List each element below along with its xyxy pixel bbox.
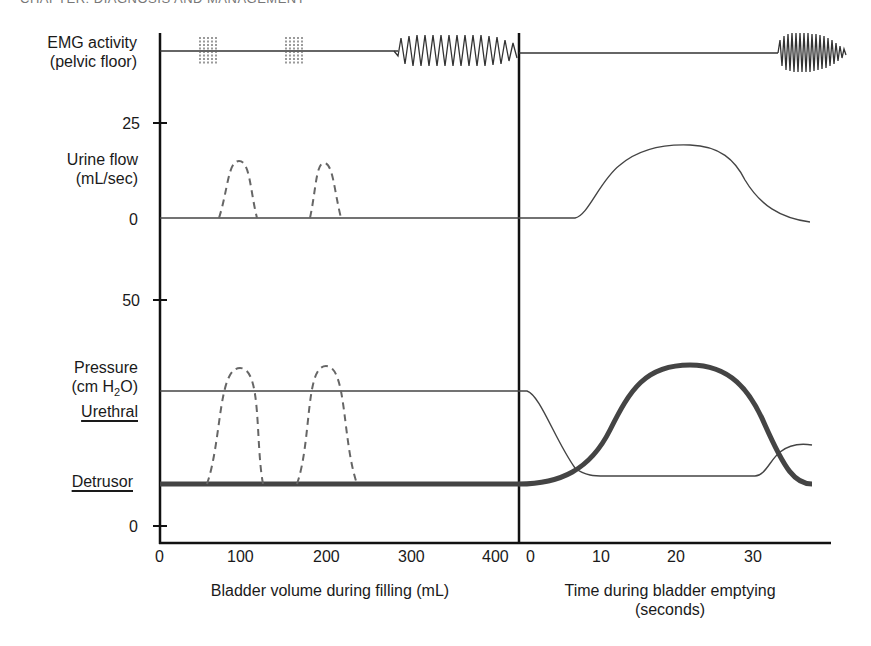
flow-label: Urine flow (mL/sec) (20, 150, 138, 188)
tick-pressure-0: 0 (100, 517, 138, 536)
x-tick-filling: 400 (482, 547, 509, 566)
x-tick-filling: 300 (398, 547, 425, 566)
pressure-label: Pressure (cm H2O) Urethral (20, 358, 138, 421)
pressure-label-line2: (cm H2O) (20, 377, 138, 402)
pressure-label-line1: Pressure (20, 358, 138, 377)
urethral-legend-label: Urethral (20, 402, 138, 421)
x-tick-filling: 100 (227, 547, 254, 566)
x-axis-label-emptying: Time during bladder emptying (seconds) (520, 581, 820, 619)
flow-label-line2: (mL/sec) (20, 169, 138, 188)
emg-trace (160, 33, 846, 72)
x-tick-emptying: 10 (592, 547, 610, 566)
emg-label-line2: (pelvic floor) (20, 52, 137, 71)
x-axis-label-emptying-line2: (seconds) (520, 600, 820, 619)
x-axis-label-filling: Bladder volume during filling (mL) (160, 581, 500, 600)
x-tick-emptying: 0 (526, 547, 535, 566)
x-tick-emptying: 30 (744, 547, 762, 566)
urine-flow-trace (160, 145, 810, 222)
flow-label-line1: Urine flow (20, 150, 138, 169)
x-tick-filling: 200 (313, 547, 340, 566)
x-tick-emptying: 20 (667, 547, 685, 566)
tick-flow-25: 25 (100, 114, 140, 133)
x-axis-label-emptying-line1: Time during bladder emptying (520, 581, 820, 600)
emg-label-line1: EMG activity (20, 33, 137, 52)
detrusor-legend-label: Detrusor (20, 472, 133, 491)
detrusor-pressure-trace (160, 365, 812, 484)
x-tick-filling: 0 (155, 547, 164, 566)
emg-label: EMG activity (pelvic floor) (20, 33, 137, 71)
urodynamic-chart (0, 0, 871, 646)
tick-flow-0: 0 (100, 210, 138, 229)
tick-pressure-50: 50 (100, 291, 140, 310)
